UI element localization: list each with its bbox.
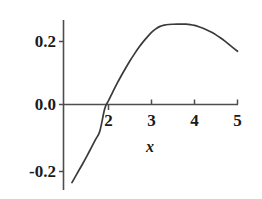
x-tick-label-3: 3 [141, 112, 162, 129]
x-tick-label-5: 5 [227, 112, 248, 129]
x-tick-label-2: 2 [98, 112, 119, 129]
x-axis-title: x [146, 139, 154, 155]
chart-figure: 0.2 0.0 -0.2 2 3 4 5 x [0, 0, 262, 199]
y-tick-label-0.0: 0.0 [8, 96, 56, 113]
x-tick-label-4: 4 [184, 112, 205, 129]
data-curve [72, 24, 238, 183]
y-tick-label-0.2: 0.2 [8, 33, 56, 50]
y-tick-label-neg0.2: -0.2 [2, 163, 56, 180]
